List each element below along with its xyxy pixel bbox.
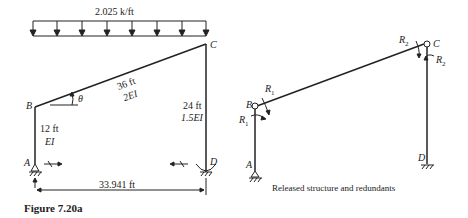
frame-left [35, 44, 206, 172]
redundant-r1-top: R1 [265, 84, 275, 97]
r-node-d-label: D [418, 153, 425, 163]
redundant-r2-right: R2 [436, 55, 446, 68]
cd-stiffness: 1.5EI [181, 113, 203, 123]
ab-length: 12 ft [40, 124, 59, 134]
load-label: 2.025 k/ft [95, 7, 134, 17]
figure-caption: Figure 7.20a [24, 202, 82, 214]
r-node-a-label: A [246, 160, 252, 170]
pin-support-a [29, 164, 42, 176]
node-a-label: A [24, 158, 30, 168]
r-node-b-label: B [246, 100, 252, 110]
frame-right [255, 44, 427, 171]
redundant-r1-bottom: R1 [239, 115, 249, 128]
distributed-load [30, 21, 209, 36]
structure-diagram [0, 0, 468, 218]
r-node-c-label: C [433, 39, 440, 49]
redundant-r2-left: R2 [399, 35, 409, 48]
node-c-label: C [210, 40, 217, 50]
node-b-label: B [26, 101, 32, 111]
span-label: 33.941 ft [99, 180, 135, 190]
theta-label: θ [78, 94, 83, 104]
cd-length: 24 ft [183, 101, 202, 111]
node-d-label: D [210, 157, 217, 167]
ab-stiffness: EI [45, 137, 54, 147]
released-structure-caption: Released structure and redundants [272, 183, 395, 193]
